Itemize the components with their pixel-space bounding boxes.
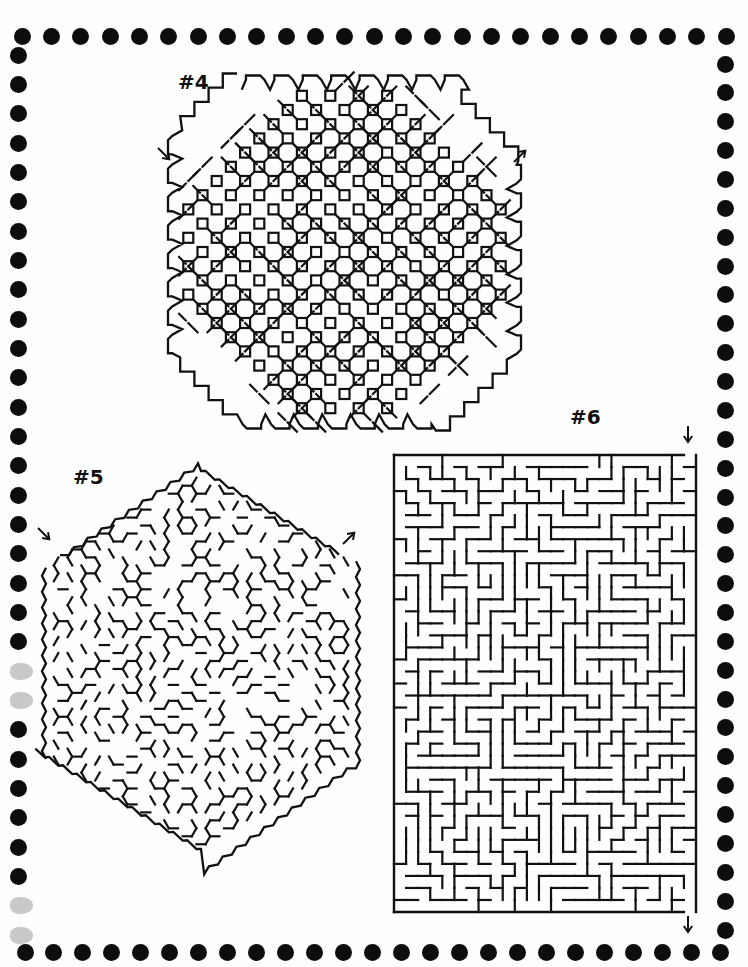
maze-4-entry-arrow-icon [158,148,169,159]
maze-arrows [0,0,748,967]
puzzle-page: #4 #5 #6 [0,0,748,967]
maze-6-exit-arrow-icon [684,916,692,932]
maze-5-exit-arrow-icon [343,533,354,544]
maze-5-entry-arrow-icon [38,528,49,539]
maze-4-exit-arrow-icon [514,151,525,162]
maze-6-entry-arrow-icon [684,426,692,442]
